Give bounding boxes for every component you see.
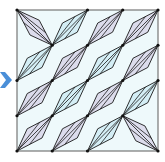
vertex-node [51,79,54,82]
vertex-node [15,114,18,117]
vertex-node [121,79,124,82]
kite-tiling-diagram [0,0,165,162]
vertex-node [51,44,54,47]
vertex-node [121,8,124,11]
vertex-node [15,8,18,11]
vertex-node [121,44,124,47]
vertex-node [86,149,89,152]
vertex-node [86,114,89,117]
vertex-node [15,149,18,152]
vertex-node [156,149,159,152]
vertex-node [156,8,159,11]
vertex-node [156,44,159,47]
vertex-node [121,114,124,117]
vertex-node [51,114,54,117]
vertex-node [86,44,89,47]
vertex-node [86,79,89,82]
vertex-node [15,79,18,82]
vertex-node [86,8,89,11]
vertex-node [51,149,54,152]
vertex-node [156,79,159,82]
